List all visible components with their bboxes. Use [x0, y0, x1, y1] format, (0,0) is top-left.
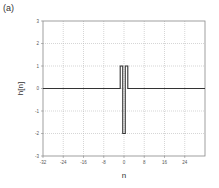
- x-tick-label: 24: [182, 160, 188, 165]
- y-tick-label: -1: [35, 109, 39, 114]
- x-tick-label: 16: [162, 160, 168, 165]
- y-tick-label: 1: [36, 64, 39, 69]
- x-tick-label: -16: [80, 160, 87, 165]
- y-axis-label: h[n]: [16, 82, 25, 95]
- y-tick-label: -2: [35, 131, 39, 136]
- x-tick-label: 0: [123, 160, 126, 165]
- y-tick-label: -3: [35, 154, 39, 159]
- x-tick-label: -32: [40, 160, 47, 165]
- x-tick-label: -24: [60, 160, 67, 165]
- x-tick-label: 8: [143, 160, 146, 165]
- y-tick-label: 2: [36, 41, 39, 46]
- y-tick-label: 0: [36, 86, 39, 91]
- impulse-response-chart: -32-24-16-8081624-3-2-10123nh[n]: [0, 0, 219, 188]
- y-tick-label: 3: [36, 19, 39, 24]
- x-axis-label: n: [122, 171, 126, 180]
- x-tick-label: -8: [102, 160, 106, 165]
